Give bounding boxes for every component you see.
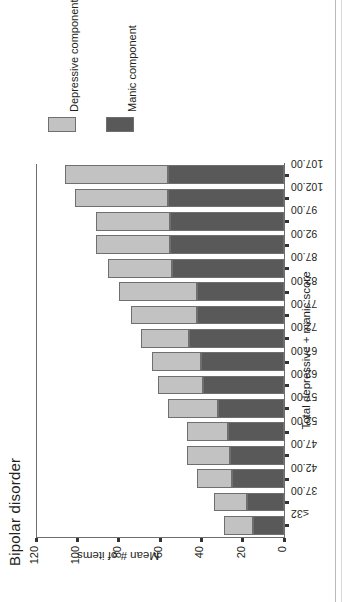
y-axis: 020406080100120 xyxy=(36,538,284,602)
bar-segment-depressive[interactable] xyxy=(214,493,247,512)
bar-segment-depressive[interactable] xyxy=(96,235,170,254)
bar-segment-depressive[interactable] xyxy=(131,306,197,325)
category-tick-mark xyxy=(285,314,289,317)
bar-group[interactable] xyxy=(187,446,284,465)
bar-segment-manic[interactable] xyxy=(247,493,284,512)
bar-segment-manic[interactable] xyxy=(218,399,284,418)
legend-swatch-manic-icon xyxy=(106,117,134,132)
y-tick-mark xyxy=(283,538,286,542)
bar-segment-manic[interactable] xyxy=(197,306,284,325)
bar-segment-depressive[interactable] xyxy=(168,399,218,418)
bar-segment-depressive[interactable] xyxy=(75,189,168,208)
chart-figure: Bipolar disorder 020406080100120 Mean # … xyxy=(0,0,342,602)
category-tick-mark xyxy=(285,244,289,247)
bar-segment-depressive[interactable] xyxy=(224,516,253,535)
y-axis-title: Mean # of items xyxy=(0,550,242,562)
category-tick-mark xyxy=(285,454,289,457)
y-tick-label: 0 xyxy=(276,546,288,552)
plot-area xyxy=(36,164,284,538)
bar-group[interactable] xyxy=(65,165,284,184)
bar-segment-manic[interactable] xyxy=(230,446,284,465)
bar-segment-depressive[interactable] xyxy=(65,165,168,184)
category-tick-mark xyxy=(285,197,289,200)
bar-group[interactable] xyxy=(131,306,284,325)
bar-segment-manic[interactable] xyxy=(172,259,284,278)
bars-container xyxy=(37,164,284,537)
bar-segment-manic[interactable] xyxy=(228,422,284,441)
bar-group[interactable] xyxy=(96,235,284,254)
category-tick-mark xyxy=(285,337,289,340)
bar-segment-depressive[interactable] xyxy=(152,352,202,371)
legend-swatch-depressive-icon xyxy=(48,117,76,132)
category-tick-mark xyxy=(285,174,289,177)
bar-segment-manic[interactable] xyxy=(197,282,284,301)
bar-segment-depressive[interactable] xyxy=(141,329,189,348)
bar-segment-manic[interactable] xyxy=(168,189,284,208)
bar-segment-depressive[interactable] xyxy=(187,446,230,465)
bar-segment-manic[interactable] xyxy=(253,516,284,535)
bar-segment-depressive[interactable] xyxy=(187,422,228,441)
y-tick-mark xyxy=(35,538,38,542)
bar-group[interactable] xyxy=(141,329,284,348)
category-tick-mark xyxy=(285,501,289,504)
category-tick-mark xyxy=(285,361,289,364)
category-tick-mark xyxy=(285,384,289,387)
bar-segment-manic[interactable] xyxy=(168,165,284,184)
category-tick-mark xyxy=(285,478,289,481)
y-tick-mark xyxy=(241,538,244,542)
bar-segment-manic[interactable] xyxy=(170,212,284,231)
legend-label-manic: Manic component xyxy=(126,25,138,112)
bar-group[interactable] xyxy=(75,189,284,208)
category-axis: ≤3237.0042.0047.0052.0057.0062.0067.0072… xyxy=(285,163,341,538)
bar-segment-depressive[interactable] xyxy=(108,259,172,278)
y-tick-mark xyxy=(159,538,162,542)
bar-group[interactable] xyxy=(96,212,284,231)
bar-segment-depressive[interactable] xyxy=(197,469,232,488)
category-tick-mark xyxy=(285,407,289,410)
bar-segment-depressive[interactable] xyxy=(119,282,198,301)
category-tick-mark xyxy=(285,291,289,294)
legend-label-depressive: Depressive component xyxy=(68,0,80,112)
category-tick-mark xyxy=(285,431,289,434)
y-tick-mark xyxy=(76,538,79,542)
bar-segment-manic[interactable] xyxy=(189,329,284,348)
bar-group[interactable] xyxy=(214,493,284,512)
bar-group[interactable] xyxy=(119,282,284,301)
bar-group[interactable] xyxy=(152,352,284,371)
bar-group[interactable] xyxy=(108,259,284,278)
category-tick-mark xyxy=(285,524,289,527)
bar-group[interactable] xyxy=(197,469,284,488)
x-axis-title: Total depressive + manic score xyxy=(300,163,312,538)
y-tick-mark xyxy=(117,538,120,542)
bar-group[interactable] xyxy=(187,422,284,441)
bar-segment-manic[interactable] xyxy=(170,235,284,254)
category-tick-mark xyxy=(285,267,289,270)
category-tick-mark xyxy=(285,220,289,223)
bar-group[interactable] xyxy=(158,376,284,395)
bar-group[interactable] xyxy=(168,399,284,418)
bar-segment-manic[interactable] xyxy=(203,376,284,395)
y-tick-mark xyxy=(200,538,203,542)
bar-group[interactable] xyxy=(224,516,284,535)
bar-segment-depressive[interactable] xyxy=(96,212,170,231)
bar-segment-manic[interactable] xyxy=(232,469,284,488)
bar-segment-manic[interactable] xyxy=(201,352,284,371)
bar-segment-depressive[interactable] xyxy=(158,376,203,395)
